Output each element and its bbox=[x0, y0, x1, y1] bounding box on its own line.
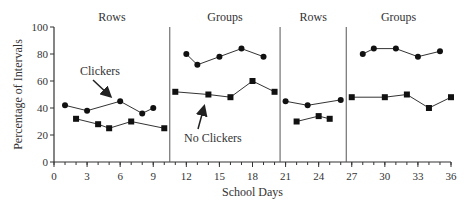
data-point-circle bbox=[371, 46, 377, 52]
x-tick-label: 30 bbox=[379, 170, 391, 182]
x-axis-label: School Days bbox=[222, 185, 283, 199]
x-tick-label: 3 bbox=[84, 170, 90, 182]
x-tick-label: 33 bbox=[412, 170, 424, 182]
line-chart: 0204060801000369121518212427303336School… bbox=[0, 0, 470, 213]
data-point-circle bbox=[360, 51, 366, 57]
y-tick-label: 100 bbox=[32, 21, 49, 33]
data-point-square bbox=[128, 119, 134, 125]
phase-label: Rows bbox=[98, 10, 126, 24]
data-point-square bbox=[426, 105, 432, 111]
data-point-circle bbox=[183, 51, 189, 57]
data-point-circle bbox=[216, 54, 222, 60]
data-point-square bbox=[95, 121, 101, 127]
data-point-square bbox=[294, 119, 300, 125]
data-point-circle bbox=[305, 102, 311, 108]
series-line-clickers bbox=[286, 100, 341, 105]
data-point-circle bbox=[238, 46, 244, 52]
series-line-no-clickers bbox=[175, 81, 274, 97]
data-point-square bbox=[404, 92, 410, 98]
y-tick-label: 20 bbox=[37, 129, 49, 141]
data-point-circle bbox=[117, 98, 123, 104]
data-point-circle bbox=[283, 98, 289, 104]
data-point-square bbox=[250, 78, 256, 84]
annotation-arrow bbox=[198, 107, 204, 129]
data-point-circle bbox=[261, 54, 267, 60]
data-point-square bbox=[327, 116, 333, 122]
data-point-square bbox=[349, 94, 355, 100]
data-point-square bbox=[205, 92, 211, 98]
x-tick-label: 24 bbox=[313, 170, 325, 182]
y-tick-label: 0 bbox=[43, 156, 49, 168]
x-tick-label: 36 bbox=[446, 170, 458, 182]
data-point-circle bbox=[338, 97, 344, 103]
y-tick-label: 60 bbox=[37, 75, 49, 87]
data-point-circle bbox=[194, 62, 200, 68]
data-point-square bbox=[106, 125, 112, 131]
data-point-square bbox=[161, 125, 167, 131]
x-tick-label: 6 bbox=[117, 170, 123, 182]
series-line-no-clickers bbox=[352, 95, 451, 109]
y-tick-label: 40 bbox=[37, 102, 49, 114]
x-tick-label: 21 bbox=[280, 170, 291, 182]
phase-label: Rows bbox=[299, 10, 327, 24]
annotation-no-clickers: No Clickers bbox=[184, 131, 242, 145]
phase-label: Groups bbox=[207, 10, 243, 24]
series-line-no-clickers bbox=[297, 116, 330, 121]
data-point-square bbox=[227, 94, 233, 100]
x-tick-label: 15 bbox=[214, 170, 226, 182]
data-point-square bbox=[448, 94, 454, 100]
x-tick-label: 0 bbox=[51, 170, 57, 182]
data-point-circle bbox=[139, 110, 145, 116]
annotation-arrow bbox=[93, 80, 110, 96]
series-line-no-clickers bbox=[76, 119, 164, 128]
y-axis-label: Percentage of Intervals bbox=[11, 39, 25, 150]
x-tick-label: 9 bbox=[151, 170, 157, 182]
data-point-square bbox=[272, 89, 278, 95]
data-point-circle bbox=[415, 54, 421, 60]
data-point-circle bbox=[393, 46, 399, 52]
annotation-clickers: Clickers bbox=[80, 64, 120, 78]
y-tick-label: 80 bbox=[37, 48, 49, 60]
data-point-circle bbox=[84, 108, 90, 114]
x-tick-label: 12 bbox=[181, 170, 192, 182]
x-tick-label: 27 bbox=[346, 170, 358, 182]
phase-label: Groups bbox=[381, 10, 417, 24]
data-point-circle bbox=[150, 105, 156, 111]
data-point-circle bbox=[437, 48, 443, 54]
data-point-square bbox=[382, 94, 388, 100]
data-point-square bbox=[73, 116, 79, 122]
data-point-circle bbox=[62, 102, 68, 108]
data-point-square bbox=[316, 113, 322, 119]
x-tick-label: 18 bbox=[247, 170, 259, 182]
data-point-square bbox=[172, 89, 178, 95]
